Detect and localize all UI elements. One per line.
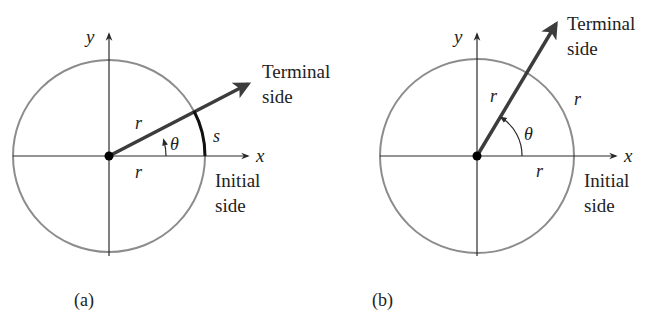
caption-b: (b) — [372, 290, 393, 311]
initial-side-label-a-line1: Initial — [215, 170, 260, 191]
terminal-side-label-b-line1: Terminal — [567, 13, 635, 34]
arc-label-b: r — [574, 89, 582, 109]
clipped-caption-line — [150, 327, 570, 334]
origin-dot-a — [105, 152, 114, 161]
y-axis-label-b: y — [452, 26, 463, 47]
terminal-side-label-a-line1: Terminal — [262, 61, 330, 82]
angle-arc-a — [164, 141, 166, 156]
arc-label-a: s — [213, 126, 220, 146]
terminal-side-label-a-line2: side — [262, 86, 293, 107]
x-axis-label-a: x — [255, 145, 265, 166]
x-axis-label-b: x — [623, 145, 633, 166]
radius-label-terminal-a: r — [135, 113, 143, 133]
radian-diagram: y x θ r r s Terminal side Initial side (… — [0, 0, 658, 334]
initial-side-label-a-line2: side — [215, 195, 246, 216]
arc-s-a — [194, 111, 205, 156]
angle-label-a: θ — [170, 134, 179, 154]
angle-arc-b — [502, 118, 522, 156]
radius-label-initial-a: r — [135, 162, 143, 182]
origin-dot-b — [473, 152, 482, 161]
radius-label-terminal-b: r — [490, 86, 498, 106]
y-axis-label-a: y — [84, 26, 95, 47]
caption-a: (a) — [74, 290, 94, 311]
initial-side-label-b-line2: side — [584, 195, 615, 216]
initial-side-label-b-line1: Initial — [584, 170, 629, 191]
terminal-side-label-b-line2: side — [567, 38, 598, 59]
radius-label-initial-b: r — [536, 161, 544, 181]
angle-label-b: θ — [524, 124, 533, 144]
terminal-ray-b — [477, 24, 556, 156]
